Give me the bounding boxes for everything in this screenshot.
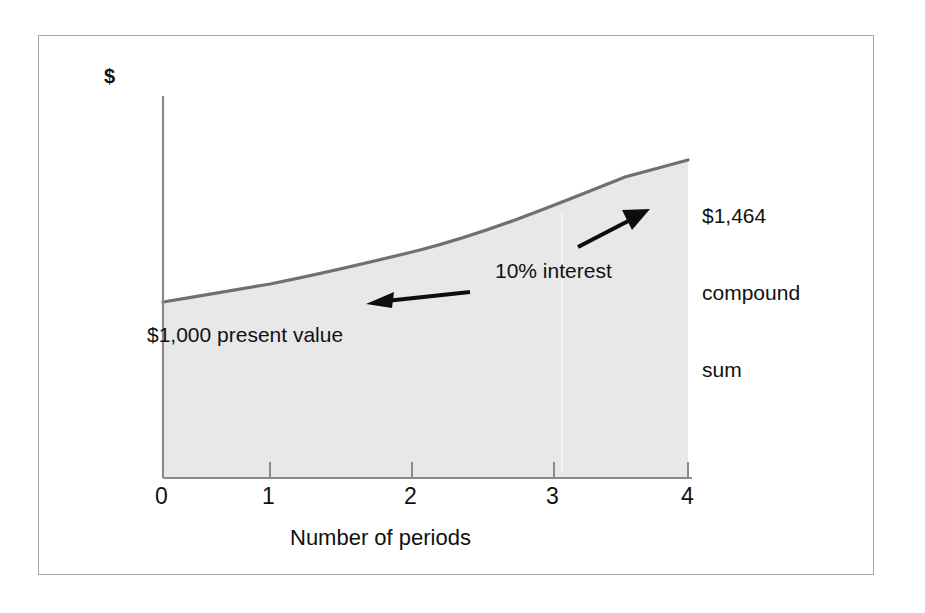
- figure-container: $ 0 1 2 3 4 Number of periods $1,000 pre…: [0, 0, 925, 613]
- x-tick-label-2: 2: [404, 482, 417, 510]
- x-tick-label-1: 1: [262, 482, 275, 510]
- compound-area-fill: [163, 160, 688, 478]
- x-tick-label-4: 4: [681, 482, 694, 510]
- present-value-annotation: $1,000 present value: [147, 322, 343, 348]
- x-tick-label-0: 0: [155, 482, 168, 510]
- compound-sum-word-sum: sum: [702, 357, 800, 383]
- y-axis-label: $: [104, 64, 115, 88]
- x-tick-label-3: 3: [546, 482, 559, 510]
- x-axis-title: Number of periods: [290, 525, 471, 552]
- compound-sum-word-compound: compound: [702, 280, 800, 306]
- compound-sum-amount: $1,464: [702, 203, 800, 229]
- interest-rate-annotation: 10% interest: [495, 258, 612, 284]
- compound-sum-annotation: $1,464 compound sum: [702, 152, 800, 434]
